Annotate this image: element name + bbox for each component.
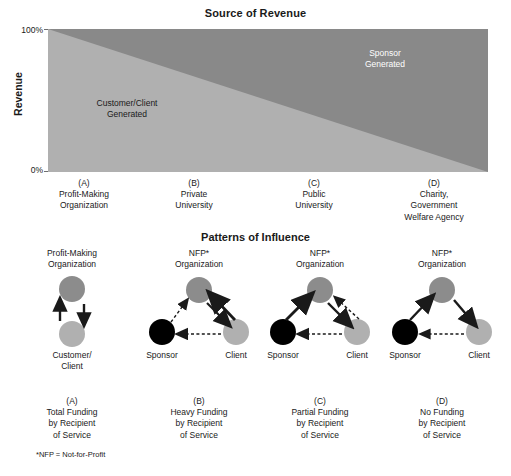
- panel-d-node-labels: Sponsor Client: [378, 350, 506, 374]
- pattern-panel-a: Profit-Making Organization Customer/ Cli…: [8, 248, 136, 441]
- y-axis-tick-mark-top: [44, 29, 48, 30]
- panel-a-graphic: [8, 276, 136, 350]
- panel-d-top-node-label: NFP* Organization: [378, 248, 506, 272]
- panel-d-node-sponsor: [392, 319, 418, 345]
- panel-b-arrow-sponsor-to-nfp-dashed: [171, 303, 185, 322]
- panel-c-arrow-sponsor-to-nfp: [286, 300, 306, 320]
- pattern-panel-d: NFP* Organization Sponsor Client (D) No …: [378, 248, 506, 441]
- panel-d-graphic: [378, 276, 506, 350]
- panel-d-label-client: Client: [444, 350, 511, 361]
- panel-d-label-sponsor: Sponsor: [370, 350, 440, 361]
- panel-b-diagram-svg: [135, 276, 263, 350]
- panel-c-node-nfp: [307, 277, 333, 303]
- x-category-c: (C) Public University: [254, 178, 374, 212]
- panel-d-node-nfp: [429, 277, 455, 303]
- chart-title: Source of Revenue: [0, 7, 511, 19]
- x-category-b: (B) Private University: [134, 178, 254, 212]
- panel-b-node-labels: Sponsor Client: [135, 350, 263, 374]
- footnote-nfp: *NFP = Not-for-Profit: [36, 450, 105, 459]
- panel-c-arrow-nfp-to-client: [328, 303, 346, 321]
- panel-c-top-node-label: NFP* Organization: [256, 248, 384, 272]
- pattern-panel-b: NFP* Organization Sponsor Client (B) Hea…: [135, 248, 263, 441]
- panel-a-node-customer: [59, 321, 85, 347]
- panel-d-node-client: [466, 319, 492, 345]
- panel-c-graphic: [256, 276, 384, 350]
- panel-b-label-sponsor: Sponsor: [127, 350, 197, 361]
- x-category-a: (A) Profit-Making Organization: [24, 178, 144, 212]
- panel-b-graphic: [135, 276, 263, 350]
- panel-c-node-client: [344, 319, 370, 345]
- sponsor-region-label: Sponsor Generated: [330, 48, 440, 70]
- panel-c-node-labels: Sponsor Client: [256, 350, 384, 374]
- panel-d-diagram-svg: [378, 276, 506, 350]
- panel-a-bottom-node-label: Customer/ Client: [22, 350, 122, 372]
- panel-d-caption: (D) No Funding by Recipient of Service: [378, 396, 506, 441]
- panel-d-arrow-sponsor-to-nfp: [410, 301, 428, 320]
- panel-a-diagram-svg: [8, 276, 136, 350]
- panel-b-caption: (B) Heavy Funding by Recipient of Servic…: [135, 396, 263, 441]
- panel-b-node-client: [223, 319, 249, 345]
- panel-c-node-sponsor: [270, 319, 296, 345]
- panel-c-label-sponsor: Sponsor: [248, 350, 318, 361]
- panel-b-node-sponsor: [149, 319, 175, 345]
- patterns-title: Patterns of Influence: [0, 231, 511, 243]
- y-axis-tick-100: 100%: [3, 25, 43, 35]
- panel-c-caption: (C) Partial Funding by Recipient of Serv…: [256, 396, 384, 441]
- panel-a-top-node-label: Profit-Making Organization: [8, 248, 136, 272]
- panel-b-arrow-client-to-nfp: [215, 299, 235, 320]
- panel-a-caption: (A) Total Funding by Recipient of Servic…: [8, 396, 136, 441]
- pattern-panel-c: NFP* Organization Sponsor Client (C) Par…: [256, 248, 384, 441]
- x-category-d: (D) Charity, Government Welfare Agency: [374, 178, 494, 223]
- y-axis-tick-0: 0%: [3, 165, 43, 175]
- panel-b-node-nfp: [186, 277, 212, 303]
- customer-client-region-label: Customer/Client Generated: [62, 98, 192, 120]
- panel-d-arrow-nfp-to-client: [454, 300, 471, 320]
- panel-c-diagram-svg: [256, 276, 384, 350]
- panel-b-top-node-label: NFP* Organization: [135, 248, 263, 272]
- y-axis-tick-mark-bottom: [44, 171, 48, 172]
- panel-a-node-org: [59, 276, 85, 302]
- y-axis-title: Revenue: [12, 54, 24, 134]
- panel-a-node-labels: Customer/ Client: [8, 350, 136, 374]
